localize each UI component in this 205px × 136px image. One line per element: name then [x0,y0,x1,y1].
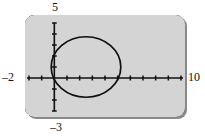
window-label-xmin: –2 [2,71,14,83]
graphing-calculator-figure: 5 –3 –2 10 [0,0,205,136]
calculator-screen [25,15,185,117]
window-label-xmax: 10 [188,71,200,83]
window-label-ymax: 5 [52,1,58,13]
window-label-ymin: –3 [50,121,62,133]
